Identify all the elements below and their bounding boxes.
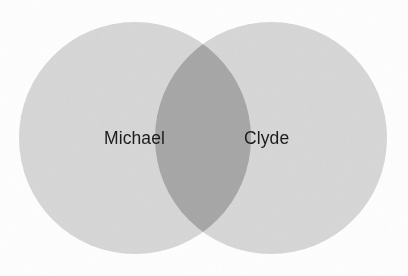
venn-diagram-graphic (0, 0, 408, 276)
venn-label-left: Michael (104, 130, 165, 148)
venn-diagram-canvas: Michael Clyde (0, 0, 408, 276)
venn-label-right: Clyde (244, 130, 289, 148)
